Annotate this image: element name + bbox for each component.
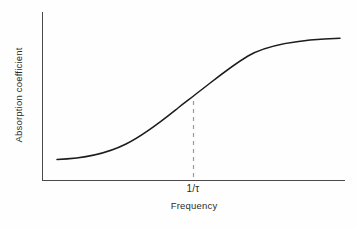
y-axis-label: Absorption coefficient [13,47,24,142]
x-axis-label: Frequency [171,200,218,211]
absorption-coefficient-figure: Absorption coefficient Frequency 1/τ [0,0,357,228]
plot-canvas [0,0,357,228]
relaxation-frequency-tick-label: 1/τ [187,183,200,194]
absorption-curve [57,38,340,159]
